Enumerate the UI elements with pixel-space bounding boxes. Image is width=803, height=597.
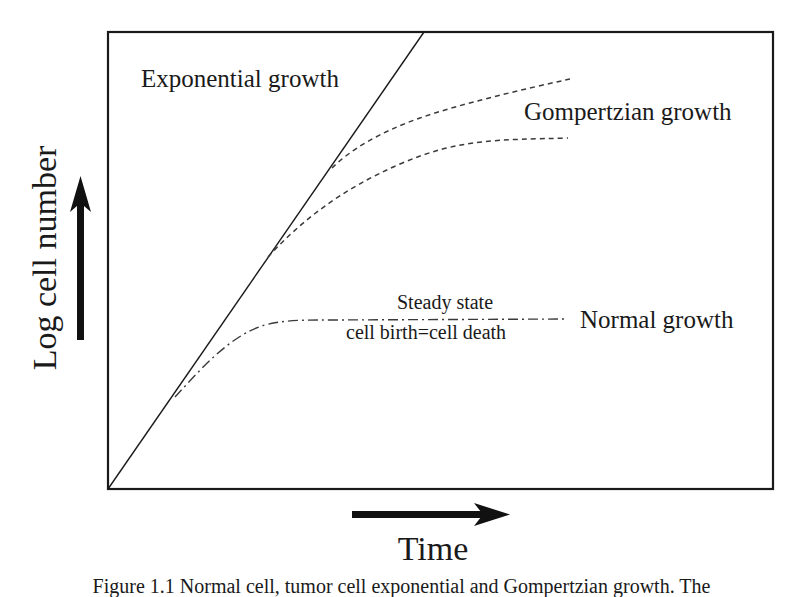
birth-equals-death-label: cell birth=cell death xyxy=(346,322,506,342)
steady-state-label: Steady state xyxy=(383,292,507,312)
figure-caption: Figure 1.1 Normal cell, tumor cell expon… xyxy=(0,576,803,596)
normal-growth-label: Normal growth xyxy=(580,307,733,332)
gompertzian-growth-label: Gompertzian growth xyxy=(524,99,732,124)
y-axis-label: Log cell number xyxy=(28,146,62,371)
x-axis-label: Time xyxy=(398,532,469,566)
x-axis-arrow-icon xyxy=(352,503,510,526)
exponential-growth-label: Exponential growth xyxy=(141,66,339,91)
gompertzian-growth-curve-lower xyxy=(268,138,568,257)
exponential-growth-line xyxy=(108,32,424,489)
y-axis-arrow-icon xyxy=(70,176,91,340)
